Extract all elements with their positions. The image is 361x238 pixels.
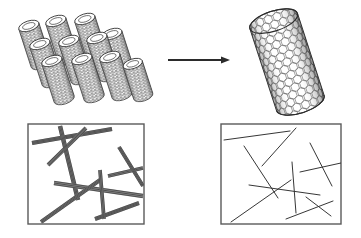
panel-bundled-nanotubes — [28, 124, 144, 224]
nanotube-bundle — [17, 11, 154, 107]
figure-canvas — [0, 0, 361, 238]
panel-border — [221, 124, 341, 224]
nanotube-shading — [247, 4, 327, 120]
transformation-arrow — [168, 57, 230, 64]
panel-individual-nanotubes — [221, 124, 341, 224]
arrow-head — [221, 57, 230, 64]
nanotube-debundling-figure — [0, 0, 361, 238]
